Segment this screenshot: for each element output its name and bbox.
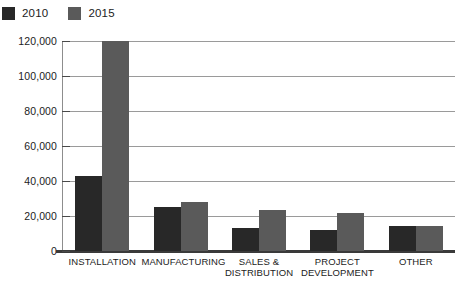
bar-2010 — [389, 226, 416, 251]
chart-legend: 2010 2015 — [2, 5, 135, 21]
y-tick-mark — [62, 216, 70, 217]
bar-2010 — [232, 228, 259, 251]
legend-label-2010: 2010 — [22, 7, 48, 19]
bar-2015 — [102, 41, 129, 251]
x-tick-label: PROJECTDEVELOPMENT — [298, 256, 376, 278]
x-axis-labels: INSTALLATIONMANUFACTURINGSALES &DISTRIBU… — [63, 256, 455, 284]
y-tick-mark — [62, 181, 70, 182]
y-tick-mark — [62, 76, 70, 77]
y-tick-label: 80,000 — [2, 105, 57, 117]
bar-2015 — [416, 226, 443, 251]
legend-swatch-2015 — [68, 7, 81, 20]
x-tick-label: INSTALLATION — [63, 256, 141, 267]
chart-page: 2010 2015 020,00040,00060,00080,000100,0… — [0, 0, 463, 286]
bars-layer — [63, 41, 455, 251]
y-tick-mark — [62, 111, 70, 112]
bar-group — [377, 41, 455, 251]
bar-2010 — [75, 176, 102, 251]
bar-2015 — [181, 202, 208, 251]
x-tick-label: SALES &DISTRIBUTION — [220, 256, 298, 278]
y-tick-label: 20,000 — [2, 210, 57, 222]
y-tick-label: 0 — [2, 245, 57, 257]
bar-group — [141, 41, 219, 251]
legend-label-2015: 2015 — [88, 7, 114, 19]
bar-group — [220, 41, 298, 251]
y-tick-mark — [62, 146, 70, 147]
bar-2015 — [259, 210, 286, 251]
y-axis-labels: 020,00040,00060,00080,000100,000120,000 — [0, 41, 57, 251]
bar-group — [298, 41, 376, 251]
y-tick-label: 120,000 — [2, 35, 57, 47]
legend-swatch-2010 — [2, 7, 15, 20]
bar-2010 — [310, 230, 337, 251]
x-tick-label: MANUFACTURING — [141, 256, 219, 267]
y-tick-label: 60,000 — [2, 140, 57, 152]
bar-group — [63, 41, 141, 251]
y-tick-label: 40,000 — [2, 175, 57, 187]
legend-item-2010: 2010 — [2, 7, 48, 20]
legend-item-2015: 2015 — [68, 7, 114, 20]
y-tick-mark — [62, 251, 70, 252]
x-tick-label: OTHER — [377, 256, 455, 267]
bar-2010 — [154, 207, 181, 251]
bar-2015 — [337, 213, 364, 251]
y-tick-mark — [62, 41, 70, 42]
y-tick-label: 100,000 — [2, 70, 57, 82]
